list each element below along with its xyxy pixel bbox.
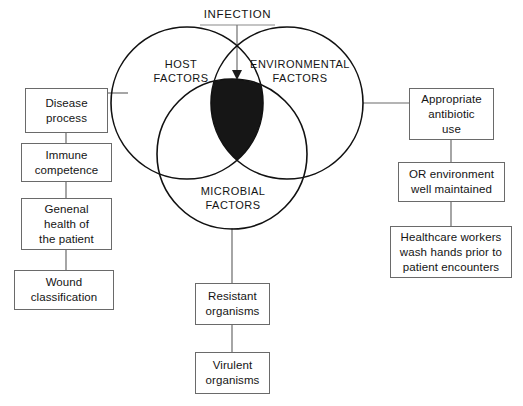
box-healthcare-workers-wash-hands[interactable]: Healthcare workers wash hands prior to p… [390, 226, 512, 278]
box-or-environment[interactable]: OR environment well maintained [398, 162, 505, 202]
venn-label-host-factors: HOST FACTORS [140, 58, 222, 85]
infection-title: INFECTION [186, 8, 289, 20]
venn-label-environmental-factors: ENVIRONMENTAL FACTORS [242, 58, 358, 85]
box-appropriate-antibiotic-use[interactable]: Appropriate antibiotic use [409, 88, 494, 140]
box-wound-classification[interactable]: Wound classification [14, 270, 114, 310]
venn-label-microbial-factors: MICROBIAL FACTORS [185, 185, 281, 212]
box-disease-process[interactable]: Disease process [25, 88, 108, 133]
box-immune-competence[interactable]: Immune competence [21, 143, 112, 182]
box-resistant-organisms[interactable]: Resistant organisms [195, 283, 270, 325]
box-virulent-organisms[interactable]: Virulent organisms [195, 352, 270, 394]
infection-factors-diagram: INFECTION HOST FACTORS ENVIRONMENTAL FAC… [0, 0, 523, 406]
box-general-health[interactable]: Genenal health of the patient [21, 198, 112, 250]
